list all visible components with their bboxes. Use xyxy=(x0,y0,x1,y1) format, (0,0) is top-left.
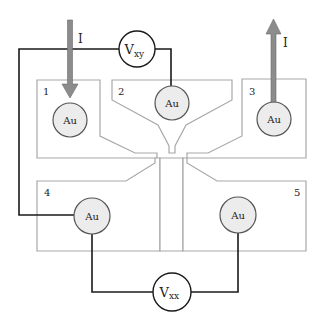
svg-text:xx: xx xyxy=(169,291,179,301)
pad-3-number: 3 xyxy=(249,86,255,97)
svg-text:xy: xy xyxy=(134,49,145,59)
pad-4-number: 4 xyxy=(44,187,50,198)
pad-2-number: 2 xyxy=(118,86,124,97)
vxx-main: V xyxy=(159,285,170,300)
voltmeter-vxy: V xy xyxy=(119,31,155,67)
vxy-sub: xy xyxy=(134,49,145,59)
svg-text:V: V xyxy=(124,42,135,57)
vxx-sub: xx xyxy=(169,291,179,301)
contact-2: Au xyxy=(155,86,189,120)
pad-1-number: 1 xyxy=(43,86,49,97)
current-in-arrow-icon xyxy=(62,20,78,98)
contact-1-label: Au xyxy=(62,115,77,126)
vxy-main: V xyxy=(124,42,135,57)
contact-3: Au xyxy=(257,102,291,136)
contact-1: Au xyxy=(53,103,87,137)
svg-text:V: V xyxy=(159,285,170,300)
contact-5-label: Au xyxy=(230,210,245,221)
contact-3-label: Au xyxy=(266,114,281,125)
contact-4: Au xyxy=(74,198,110,234)
hall-bar-diagram: Au Au Au Au Au 1 2 3 4 5 V xy V xx xyxy=(0,0,323,328)
current-out-label: I xyxy=(283,36,288,50)
contact-2-label: Au xyxy=(164,98,179,109)
contact-5: Au xyxy=(220,197,256,233)
channel xyxy=(160,158,183,251)
current-in-label: I xyxy=(78,32,83,46)
voltmeter-vxx: V xx xyxy=(153,273,191,311)
contact-4-label: Au xyxy=(84,211,99,222)
pad-5-number: 5 xyxy=(294,187,300,198)
